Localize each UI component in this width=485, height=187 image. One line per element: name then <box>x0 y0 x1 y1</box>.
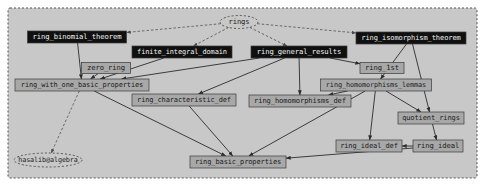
graph-node-ring_characteristic_def[interactable]: ring_characteristic_def <box>132 94 236 106</box>
node-label: ring_homomorphisms_def <box>254 96 346 105</box>
graph-node-zero_ring[interactable]: zero_ring <box>82 63 131 74</box>
node-label: ring_binomial_theorem <box>33 32 122 41</box>
graph-node-ring_general_results[interactable]: ring_general_results <box>251 46 347 58</box>
graph-svg: ringsring_binomial_theoremfinite_integra… <box>0 0 485 187</box>
graph-node-ring_ideal_def[interactable]: ring_ideal_def <box>336 140 402 152</box>
graph-node-ring_1st[interactable]: ring_1st <box>360 63 404 74</box>
node-label: hasalib@algebra <box>18 156 78 164</box>
graph-node-rings[interactable]: rings <box>220 16 258 29</box>
node-label: ring_homomorphisms_lemmas <box>326 81 426 89</box>
graph-node-ring_basic_properties[interactable]: ring_basic_properties <box>190 156 286 168</box>
node-label: ring_ideal <box>417 141 459 150</box>
graph-node-quotient_rings[interactable]: quotient_rings <box>398 112 464 124</box>
node-label: finite_integral_domain <box>137 48 227 56</box>
graph-node-hasalib_algebra[interactable]: hasalib@algebra <box>14 153 82 167</box>
node-label: ring_ideal_def <box>340 141 398 150</box>
graph-node-ring_homomorphisms_lemmas[interactable]: ring_homomorphisms_lemmas <box>321 79 432 91</box>
node-label: ring_basic_properties <box>195 158 281 166</box>
node-label: ring_with_one_basic_properties <box>21 81 143 89</box>
graph-node-ring_isomorphism_theorem[interactable]: ring_isomorphism_theorem <box>356 32 466 44</box>
node-label: ring_1st <box>365 63 399 72</box>
node-label: ring_general_results <box>257 47 342 56</box>
dependency-graph-canvas: ringsring_binomial_theoremfinite_integra… <box>0 0 485 187</box>
node-label: zero_ring <box>87 63 125 72</box>
node-label: ring_isomorphism_theorem <box>361 33 460 42</box>
node-label: ring_characteristic_def <box>137 96 231 104</box>
graph-node-ring_with_one_basic_properties[interactable]: ring_with_one_basic_properties <box>15 79 149 91</box>
graph-node-ring_homomorphisms_def[interactable]: ring_homomorphisms_def <box>249 95 351 107</box>
node-label: rings <box>228 17 249 26</box>
graph-node-ring_ideal[interactable]: ring_ideal <box>413 140 463 152</box>
node-label: quotient_rings <box>402 113 460 122</box>
graph-node-ring_binomial_theorem[interactable]: ring_binomial_theorem <box>28 31 127 43</box>
graph-node-finite_integral_domain[interactable]: finite_integral_domain <box>132 46 232 58</box>
